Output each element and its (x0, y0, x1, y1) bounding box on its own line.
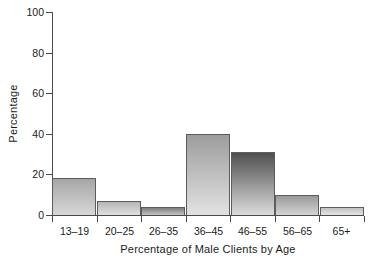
x-tick-label: 20–25 (97, 225, 142, 237)
bar-46-55 (231, 152, 275, 215)
bar-26-35 (141, 207, 185, 215)
x-tick-mark (97, 216, 98, 222)
x-tick-mark (141, 216, 142, 222)
x-tick-label: 46–55 (230, 225, 275, 237)
y-tick-mark (46, 134, 52, 135)
x-tick-label: 65+ (319, 225, 364, 237)
x-tick-label: 56–65 (275, 225, 320, 237)
bar-65+ (320, 207, 364, 215)
y-tick-label: 80 (4, 48, 44, 58)
y-tick-mark (46, 93, 52, 94)
x-tick-mark (364, 216, 365, 222)
bar-36-45 (186, 134, 230, 215)
x-tick-mark (319, 216, 320, 222)
y-tick-mark (46, 174, 52, 175)
x-tick-label: 26–35 (141, 225, 186, 237)
x-tick-mark (275, 216, 276, 222)
y-tick-mark (46, 12, 52, 13)
x-tick-label: 36–45 (186, 225, 231, 237)
bar-56-65 (275, 195, 319, 215)
y-tick-label: 60 (4, 88, 44, 98)
x-tick-mark (230, 216, 231, 222)
y-tick-mark (46, 53, 52, 54)
y-axis-title: Percentage (5, 12, 21, 215)
y-tick-label: 20 (4, 169, 44, 179)
x-axis-line (52, 215, 364, 216)
y-tick-label: 100 (4, 7, 44, 17)
y-tick-label: 40 (4, 129, 44, 139)
bar-13-19 (52, 178, 96, 215)
bar-20-25 (97, 201, 141, 215)
x-tick-mark (186, 216, 187, 222)
x-tick-label: 13–19 (52, 225, 97, 237)
bar-chart-figure: Percentage 020406080100 13–1920–2526–353… (0, 0, 369, 263)
y-tick-label: 0 (4, 210, 44, 220)
x-axis-title: Percentage of Male Clients by Age (52, 243, 364, 256)
x-tick-mark (52, 216, 53, 222)
